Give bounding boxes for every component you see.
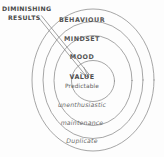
ring-label-mood: MOOD	[0, 54, 164, 61]
ring-core-1	[72, 61, 115, 102]
diminishing-results-arrow	[39, 16, 90, 78]
diagram-canvas: BEHAVIOUR MINDSET MOOD VALUE Predictable…	[0, 0, 164, 157]
center-label-predictable: Predictable	[0, 83, 164, 89]
ring-label-duplicate: Duplicate	[0, 138, 164, 145]
ring-label-mindset: MINDSET	[0, 36, 164, 43]
callout-label-line2: RESULTS	[2, 15, 64, 22]
ring-label-unenthusiastic: unenthusiastic	[0, 102, 164, 109]
ring-label-maintenance: maintenance	[0, 120, 164, 127]
callout-label-line1: DIMINISHING	[2, 6, 58, 13]
center-label-value: VALUE	[0, 74, 164, 81]
